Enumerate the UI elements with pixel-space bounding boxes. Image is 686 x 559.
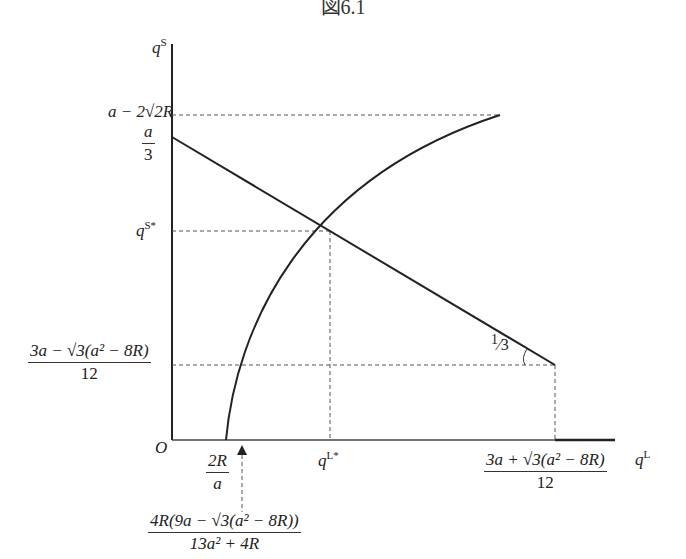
x-tick-high: 3a + √3(a² − 8R) 12 [484,450,607,493]
y-tick-qs-star: qS* [136,219,156,241]
up-arrow-icon [237,445,247,455]
y-tick-top: a − 2√2R [108,102,173,122]
y-axis-label: qS [152,36,167,58]
x-tick-ql-star: qL* [318,449,339,471]
x-tick-2r-over-a: 2R a [206,451,229,494]
angle-arc [523,349,527,365]
concave-curve [226,115,500,440]
y-tick-low: 3a − √3(a² − 8R) 12 [28,341,151,384]
x-axis-label: qL [635,448,650,470]
origin-label: O [155,438,167,458]
x-tick-arrow-value: 4R(9a − √3(a² − 8R)) 13a² + 4R [148,511,301,554]
y-tick-a-over-3: a 3 [142,122,155,165]
downward-line [172,137,555,365]
slope-annotation: 1⁄3 [491,332,509,354]
